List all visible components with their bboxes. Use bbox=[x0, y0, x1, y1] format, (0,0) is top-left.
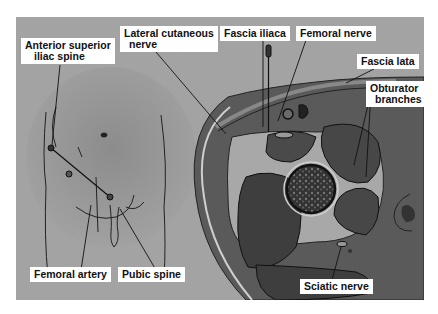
label-text: Femoral nerve bbox=[300, 27, 372, 39]
label-sciatic-nerve: Sciatic nerve bbox=[300, 279, 373, 294]
label-text: Sciatic nerve bbox=[304, 280, 369, 292]
label-text: Fascia iliaca bbox=[224, 27, 286, 39]
label-text: Fascia lata bbox=[361, 55, 415, 67]
label-fascia-iliaca: Fascia iliaca bbox=[220, 26, 290, 41]
label-femoral-nerve: Femoral nerve bbox=[296, 26, 376, 41]
label-text: Femoral artery bbox=[34, 268, 107, 280]
diagram-frame: Anterior superior iliac spine Lateral cu… bbox=[16, 17, 424, 300]
label-femoral-artery: Femoral artery bbox=[30, 267, 111, 282]
label-text: Pubic spine bbox=[122, 268, 181, 280]
label-text: iliac spine bbox=[25, 51, 111, 62]
label-text: branches bbox=[370, 94, 422, 105]
label-fascia-lata: Fascia lata bbox=[357, 54, 419, 69]
label-anterior-superior-iliac-spine: Anterior superior iliac spine bbox=[21, 38, 115, 64]
label-obturator-branches: Obturator branches bbox=[366, 81, 424, 107]
label-text: nerve bbox=[124, 39, 214, 50]
torso-drawing bbox=[26, 67, 196, 277]
label-pubic-spine: Pubic spine bbox=[118, 267, 185, 282]
label-lateral-cutaneous-nerve: Lateral cutaneous nerve bbox=[120, 26, 218, 52]
